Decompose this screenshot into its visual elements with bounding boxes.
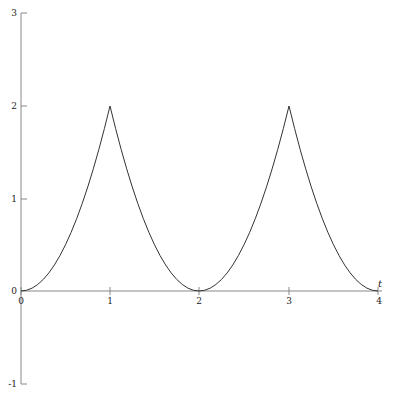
y-ticks: 3 2 1 0 -1 <box>8 8 27 389</box>
y-tick-label: -1 <box>8 379 17 389</box>
y-tick-label: 2 <box>11 101 17 111</box>
x-axis-label: t <box>378 278 383 289</box>
y-tick-label: 3 <box>11 8 17 18</box>
x-ticks: 0 1 2 3 4 t <box>18 278 383 306</box>
x-tick-label: 4 <box>376 296 382 306</box>
y-tick-label: 0 <box>11 286 17 296</box>
y-tick-label: 1 <box>11 194 17 204</box>
x-tick-label: 2 <box>196 296 202 306</box>
function-curve <box>21 106 378 291</box>
chart-canvas: 3 2 1 0 -1 0 1 2 3 4 t <box>0 0 395 393</box>
x-tick-label: 0 <box>18 296 24 306</box>
x-tick-label: 1 <box>107 296 113 306</box>
x-tick-label: 3 <box>286 296 292 306</box>
